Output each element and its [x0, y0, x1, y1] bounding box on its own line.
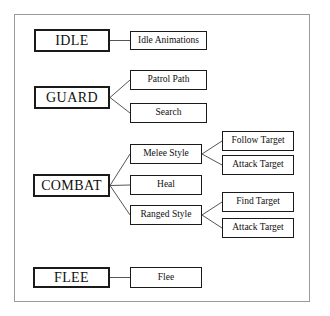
leaf-node-melee-follow-target[interactable]: Follow Target	[222, 131, 294, 151]
state-node-combat-label: COMBAT	[41, 179, 102, 193]
action-node-idle-animations[interactable]: Idle Animations	[130, 31, 207, 50]
leaf-node-ranged-attack-target-label: Attack Target	[232, 223, 283, 233]
state-node-idle-label: IDLE	[55, 34, 88, 48]
action-node-melee-style-label: Melee Style	[143, 149, 189, 159]
action-node-idle-animations-label: Idle Animations	[138, 36, 199, 46]
leaf-node-melee-attack-target[interactable]: Attack Target	[222, 155, 294, 175]
action-node-patrol-path[interactable]: Patrol Path	[130, 70, 207, 90]
action-node-heal-label: Heal	[157, 180, 175, 190]
state-machine-diagram: IDLE Idle Animations GUARD Patrol Path S…	[0, 0, 330, 316]
state-node-flee[interactable]: FLEE	[33, 267, 110, 288]
leaf-node-ranged-find-target-label: Find Target	[236, 197, 280, 207]
state-node-flee-label: FLEE	[54, 271, 89, 285]
state-node-guard[interactable]: GUARD	[34, 86, 110, 109]
state-node-combat[interactable]: COMBAT	[33, 174, 110, 197]
action-node-search-label: Search	[156, 108, 182, 118]
action-node-flee-label: Flee	[158, 273, 174, 283]
action-node-heal[interactable]: Heal	[130, 175, 202, 195]
action-node-ranged-style[interactable]: Ranged Style	[130, 205, 202, 225]
leaf-node-melee-attack-target-label: Attack Target	[232, 160, 283, 170]
state-node-idle[interactable]: IDLE	[34, 29, 110, 52]
action-node-melee-style[interactable]: Melee Style	[130, 144, 202, 164]
action-node-search[interactable]: Search	[130, 103, 207, 123]
state-node-guard-label: GUARD	[46, 91, 98, 105]
action-node-ranged-style-label: Ranged Style	[141, 210, 192, 220]
action-node-patrol-path-label: Patrol Path	[148, 75, 190, 85]
leaf-node-melee-follow-target-label: Follow Target	[231, 136, 284, 146]
action-node-flee[interactable]: Flee	[130, 267, 202, 288]
leaf-node-ranged-find-target[interactable]: Find Target	[222, 192, 294, 212]
leaf-node-ranged-attack-target[interactable]: Attack Target	[222, 218, 294, 238]
